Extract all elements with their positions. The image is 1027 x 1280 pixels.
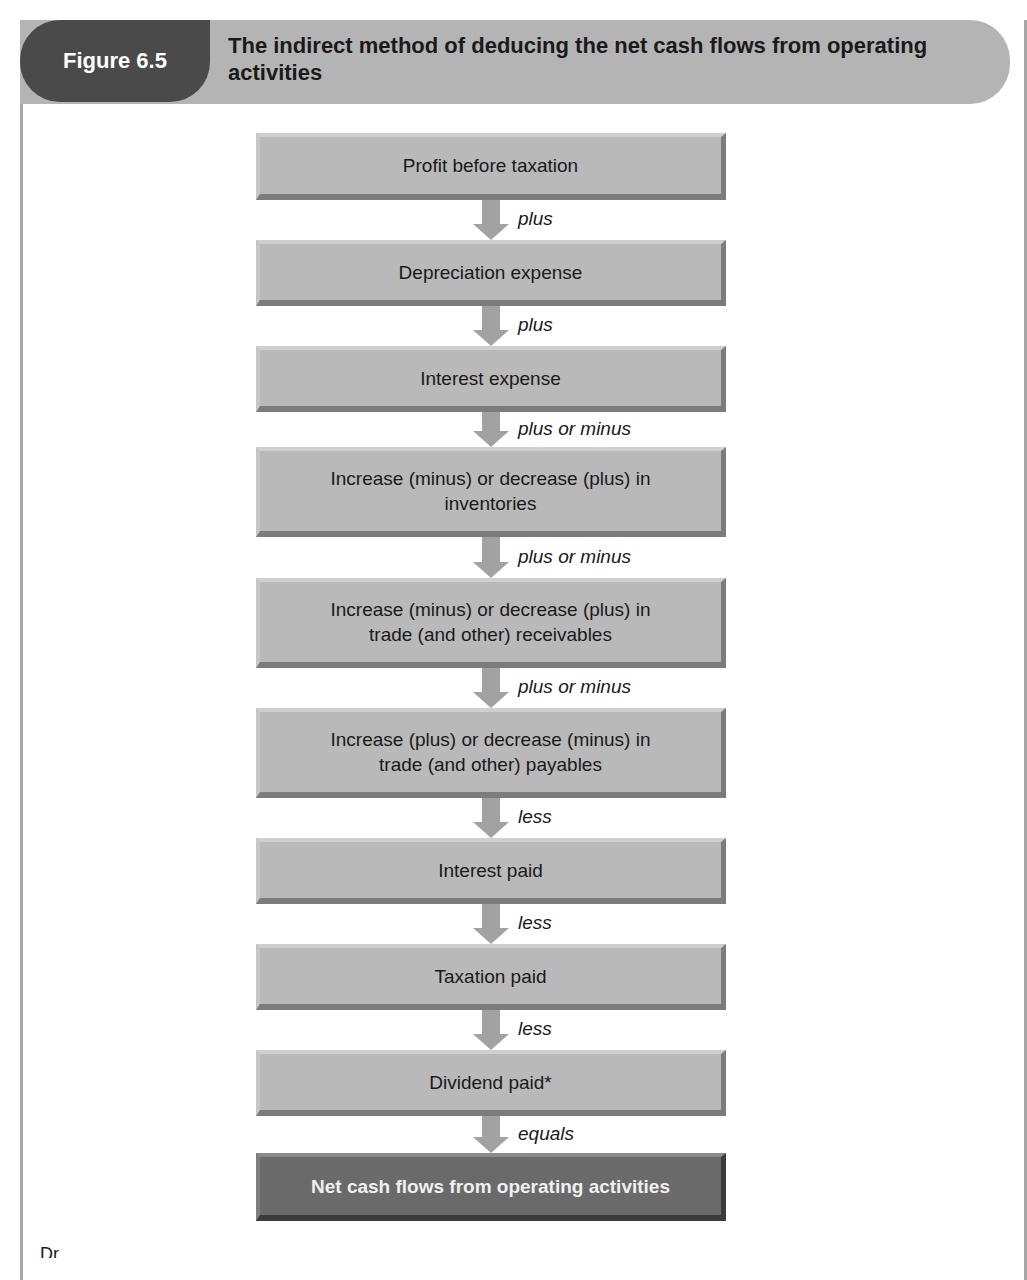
result-box: Net cash flows from operating activities [256, 1153, 726, 1221]
flow-step-label: Dividend paid* [429, 1070, 552, 1095]
flow-step-box: Interest paid [256, 838, 726, 904]
operator-label: equals [518, 1123, 574, 1145]
flow-step-label: Depreciation expense [399, 260, 583, 285]
flow-step-label: Profit before taxation [403, 153, 578, 178]
operator-label: plus or minus [518, 418, 631, 440]
flow-step-label: Increase (minus) or decrease (plus) in t… [311, 597, 671, 647]
operator-label: plus or minus [518, 546, 631, 568]
flow-step-label: Interest paid [438, 858, 543, 883]
down-arrow-icon [473, 668, 509, 708]
flow-step-label: Interest expense [420, 366, 560, 391]
down-arrow-icon [473, 306, 509, 346]
down-arrow-icon [473, 798, 509, 838]
down-arrow-icon [473, 1010, 509, 1050]
flow-step-box: Depreciation expense [256, 240, 726, 306]
operator-label: less [518, 912, 552, 934]
operator-label: less [518, 1018, 552, 1040]
down-arrow-icon [473, 200, 509, 240]
flow-step-label: Increase (minus) or decrease (plus) in i… [311, 466, 671, 516]
down-arrow-icon [473, 904, 509, 944]
down-arrow-icon [473, 537, 509, 578]
flow-step-label: Increase (plus) or decrease (minus) in t… [311, 727, 671, 777]
down-arrow-icon [473, 1116, 509, 1153]
flow-step-box: Increase (minus) or decrease (plus) in i… [256, 447, 726, 537]
flow-step-box: Interest expense [256, 346, 726, 412]
flow-step-box: Dividend paid* [256, 1050, 726, 1116]
operator-label: plus or minus [518, 676, 631, 698]
flow-step-box: Taxation paid [256, 944, 726, 1010]
flow-step-box: Increase (plus) or decrease (minus) in t… [256, 708, 726, 798]
flow-step-box: Increase (minus) or decrease (plus) in t… [256, 578, 726, 668]
down-arrow-icon [473, 412, 509, 447]
operator-label: plus [518, 208, 553, 230]
caption-fragment: Dr... [40, 1244, 73, 1258]
flow-step-box: Profit before taxation [256, 133, 726, 200]
operator-label: less [518, 806, 552, 828]
flow-step-label: Taxation paid [435, 964, 547, 989]
result-label: Net cash flows from operating activities [311, 1174, 670, 1199]
operator-label: plus [518, 314, 553, 336]
